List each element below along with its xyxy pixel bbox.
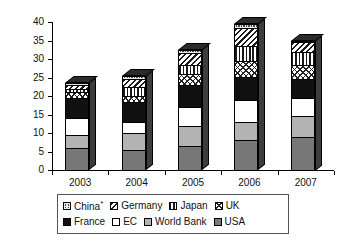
legend-row-2: FranceECWorld BankUSA — [63, 214, 284, 230]
x-tick-mark — [52, 171, 53, 175]
legend-swatch-worldbank-icon — [144, 218, 152, 226]
x-tick-label: 2006 — [227, 177, 271, 188]
x-tick-mark — [278, 171, 279, 175]
x-tick-label: 2003 — [58, 177, 102, 188]
bar-front-face — [234, 24, 258, 170]
legend-item-germany[interactable]: Germany — [110, 201, 162, 211]
bar-segment-ec — [292, 99, 314, 118]
bar-side-face — [258, 18, 265, 170]
bar-segment-worldbank — [292, 117, 314, 137]
bar-front-face — [291, 41, 315, 171]
bar-segment-usa — [179, 147, 201, 170]
legend-label-superscript: * — [100, 199, 103, 208]
plot-area: $ billion 0510152025303540 2003200420052… — [0, 0, 348, 190]
legend-label-worldbank: World Bank — [155, 217, 207, 227]
bar-segment-uk — [292, 66, 314, 81]
stacked-bar-chart: $ billion 0510152025303540 2003200420052… — [0, 0, 348, 244]
legend-item-usa[interactable]: USA — [214, 217, 246, 227]
y-tick-label: 30 — [22, 54, 44, 64]
x-tick-mark — [108, 171, 109, 175]
bar-segment-france — [235, 78, 257, 100]
bar-segment-japan — [292, 53, 314, 66]
y-tick-label: 10 — [22, 128, 44, 138]
bar-segment-worldbank — [123, 134, 145, 151]
bar-side-face — [146, 70, 153, 170]
y-tick-label: 35 — [22, 36, 44, 46]
x-tick-mark — [221, 171, 222, 175]
legend-item-japan[interactable]: Japan — [169, 201, 207, 211]
legend-label-ec: EC — [123, 217, 137, 227]
legend-item-uk[interactable]: UK — [215, 201, 240, 211]
legend-item-china[interactable]: China* — [63, 199, 103, 212]
chart-legend: China*GermanyJapanUKFranceECWorld BankUS… — [57, 194, 289, 234]
bar-segment-japan — [235, 47, 257, 62]
legend-item-ec[interactable]: EC — [112, 217, 137, 227]
legend-row-1: China*GermanyJapanUK — [63, 198, 284, 214]
x-tick-label: 2004 — [115, 177, 159, 188]
bar-segment-germany — [123, 80, 145, 87]
bar-segment-france — [179, 86, 201, 108]
y-tick-label: 20 — [22, 91, 44, 101]
bar-segment-usa — [123, 151, 145, 170]
legend-label-china: China* — [74, 199, 103, 212]
bar-group-2004 — [122, 76, 146, 170]
y-tick-label: 15 — [22, 110, 44, 120]
bar-front-face — [122, 76, 146, 170]
bar-segment-usa — [292, 138, 314, 170]
legend-swatch-france-icon — [63, 218, 71, 226]
bar-segment-uk — [179, 75, 201, 86]
bar-front-face — [178, 50, 202, 170]
y-tick-label: 5 — [22, 147, 44, 157]
bar-segment-ec — [123, 123, 145, 134]
bar-segment-worldbank — [179, 127, 201, 147]
bar-segment-uk — [235, 62, 257, 79]
legend-rows: China*GermanyJapanUKFranceECWorld BankUS… — [63, 198, 284, 230]
bar-segment-france — [292, 80, 314, 99]
bar-group-2005 — [178, 50, 202, 170]
legend-label-uk: UK — [226, 201, 240, 211]
x-axis-line — [52, 170, 334, 171]
bar-group-2006 — [234, 24, 258, 170]
legend-swatch-germany-icon — [110, 202, 118, 210]
bar-segment-france — [66, 99, 88, 119]
bar-segment-worldbank — [235, 123, 257, 142]
bar-segment-germany — [235, 29, 257, 48]
x-tick-mark — [334, 171, 335, 175]
bar-front-face — [65, 83, 89, 170]
bar-segment-ec — [66, 119, 88, 136]
y-tick-label: 25 — [22, 73, 44, 83]
legend-swatch-ec-icon — [112, 218, 120, 226]
legend-item-france[interactable]: France — [63, 217, 105, 227]
bar-segment-japan — [179, 66, 201, 75]
y-tick-label: 0 — [22, 165, 44, 175]
bar-segment-usa — [66, 149, 88, 170]
legend-swatch-usa-icon — [214, 218, 222, 226]
legend-label-germany: Germany — [121, 201, 162, 211]
bar-segment-ec — [179, 108, 201, 127]
bar-segment-usa — [235, 141, 257, 170]
bar-side-face — [89, 78, 96, 170]
legend-label-japan: Japan — [180, 201, 207, 211]
bar-group-2003 — [65, 83, 89, 170]
y-axis-line — [52, 22, 53, 171]
y-tick-label: 40 — [22, 17, 44, 27]
bar-group-2007 — [291, 41, 315, 171]
bar-segment-japan — [123, 88, 145, 97]
bar-segment-germany — [292, 43, 314, 52]
legend-swatch-uk-icon — [215, 202, 223, 210]
bar-segment-worldbank — [66, 136, 88, 149]
bar-segment-france — [123, 103, 145, 123]
legend-item-worldbank[interactable]: World Bank — [144, 217, 207, 227]
x-tick-mark — [165, 171, 166, 175]
bar-side-face — [202, 44, 209, 170]
legend-swatch-china-icon — [63, 202, 71, 210]
x-tick-label: 2007 — [284, 177, 328, 188]
bar-segment-germany — [179, 54, 201, 65]
bar-segment-ec — [235, 101, 257, 123]
legend-label-usa: USA — [225, 217, 246, 227]
x-tick-label: 2005 — [171, 177, 215, 188]
legend-swatch-japan-icon — [169, 202, 177, 210]
bar-side-face — [315, 35, 322, 170]
legend-label-france: France — [74, 217, 105, 227]
